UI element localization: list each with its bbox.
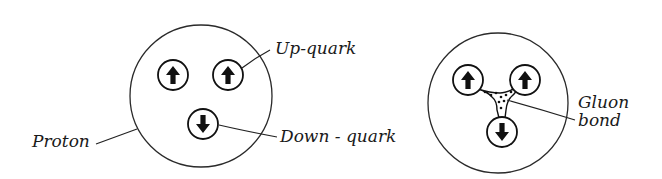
- down-quark-c: [487, 117, 517, 147]
- up-quark-leader-line: [242, 50, 270, 68]
- up-quark-2: [213, 60, 243, 90]
- proton-leader-line: [96, 129, 137, 144]
- down-quark: [188, 109, 218, 139]
- gluon-figure: Gluon bond: [428, 33, 629, 173]
- up-quark-a: [453, 65, 483, 95]
- gluon-label-line2: bond: [578, 110, 621, 130]
- up-quark-b: [510, 65, 540, 95]
- up-quark-label: Up-quark: [275, 38, 356, 58]
- gluon-leader-line: [507, 100, 575, 120]
- proton-outline: [130, 25, 272, 167]
- down-quark-leader-line: [219, 125, 277, 137]
- gluon-label-line1: Gluon: [578, 92, 629, 112]
- up-quark-1: [158, 60, 188, 90]
- proton-label: Proton: [31, 131, 90, 151]
- down-quark-label: Down - quark: [279, 126, 396, 146]
- quark-diagram: Up-quark Down - quark Proton: [0, 0, 662, 179]
- proton-figure: Up-quark Down - quark Proton: [31, 25, 396, 167]
